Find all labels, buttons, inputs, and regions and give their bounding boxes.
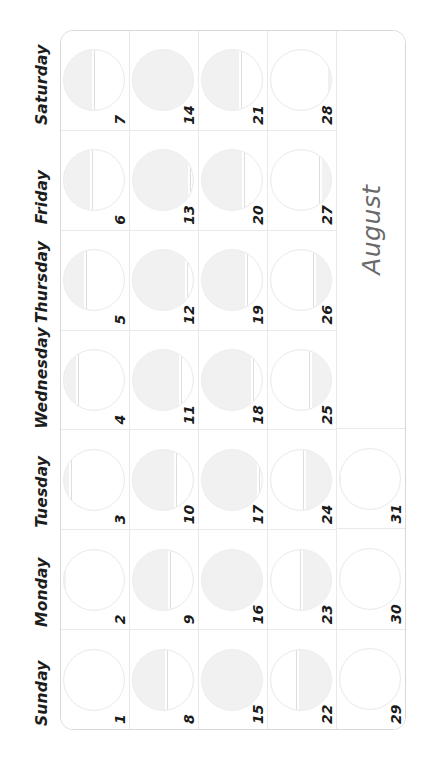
moon-illuminated-area [316,249,331,311]
calendar-day-cell[interactable]: 2 [61,529,129,629]
moon-illuminated-area [132,349,180,411]
moon-phase-icon [63,549,125,611]
moon-phase-icon [132,149,194,211]
moon-terminator-line [86,249,87,311]
weekday-label: Thursday [33,241,51,323]
moon-outline [339,648,401,710]
day-number: 27 [320,205,334,224]
calendar-day-cell[interactable]: 8 [130,629,198,729]
moon-phase-icon [63,149,125,211]
calendar-day-cell[interactable]: 5 [61,230,129,330]
weekday-header-sunday: Sunday [24,631,60,730]
calendar-day-cell[interactable]: 25 [268,330,336,430]
calendar-day-cell[interactable]: 12 [130,230,198,330]
day-number: 11 [182,405,196,424]
month-title-cell: August [337,31,405,428]
calendar-day-cell[interactable]: 7 [61,31,129,130]
moon-outline [270,49,332,111]
moon-terminator-line [92,149,93,211]
moon-phase-icon [63,249,125,311]
weekday-header-monday: Monday [24,532,60,631]
calendar-day-cell[interactable]: 23 [268,529,336,629]
moon-phase-icon [132,49,194,111]
calendar-day-cell[interactable]: 14 [130,31,198,130]
calendar-day-cell[interactable]: 10 [130,429,198,529]
moon-illuminated-area [132,249,185,311]
day-number: 8 [182,714,196,724]
moon-phase-icon [201,349,263,411]
weekday-label: Friday [33,170,51,224]
day-number: 30 [389,604,403,623]
day-number: 19 [251,305,265,324]
moon-phase-icon [201,549,263,611]
day-number: 23 [320,605,334,624]
moon-terminator-line [94,49,95,111]
calendar-day-cell[interactable]: 26 [268,230,336,330]
calendar-week-row: 891011121314 [130,31,199,729]
moon-illuminated-area [201,49,240,111]
moon-phase-icon [270,649,332,711]
moon-phase-icon [270,449,332,511]
calendar-page-rotation-wrapper: SundayMondayTuesdayWednesdayThursdayFrid… [0,0,444,766]
moon-phase-icon [132,649,194,711]
moon-terminator-line [296,649,297,711]
moon-phase-icon [339,448,401,510]
day-number: 21 [251,105,265,124]
calendar-day-cell[interactable]: 22 [268,629,336,729]
calendar-day-cell[interactable]: 20 [199,130,267,230]
calendar-day-cell[interactable]: 21 [199,31,267,130]
calendar-day-cell[interactable]: 1 [61,629,129,729]
calendar-week-row: 1234567 [61,31,130,729]
moon-phase-icon [270,149,332,211]
calendar-day-cell[interactable]: 11 [130,330,198,430]
moon-terminator-line [247,249,248,311]
calendar-body: SundayMondayTuesdayWednesdayThursdayFrid… [24,30,406,730]
calendar-day-cell[interactable]: 29 [337,629,405,729]
calendar-day-cell[interactable]: 31 [337,428,405,528]
day-number: 1 [113,714,127,724]
calendar-day-cell[interactable]: 30 [337,528,405,628]
moon-illuminated-area [132,549,169,611]
moon-terminator-line [309,349,310,411]
calendar-day-cell[interactable]: 15 [199,629,267,729]
calendar-grid: 1234567891011121314151617181920212223242… [60,30,406,730]
day-number: 14 [182,105,196,124]
day-number: 5 [113,315,127,325]
moon-illuminated-area [132,149,189,211]
moon-terminator-line [71,449,72,511]
weekday-header-wednesday: Wednesday [24,327,60,432]
calendar-day-cell[interactable]: 4 [61,330,129,430]
moon-phase-icon [270,349,332,411]
calendar-day-cell[interactable]: 24 [268,429,336,529]
moon-illuminated-area [132,649,166,711]
moon-phase-icon [63,49,125,111]
calendar-day-cell[interactable]: 19 [199,230,267,330]
moon-illuminated-area [63,149,91,211]
calendar-day-cell[interactable]: 13 [130,130,198,230]
calendar-day-cell[interactable]: 17 [199,429,267,529]
weekday-header-row: SundayMondayTuesdayWednesdayThursdayFrid… [24,30,60,730]
day-number: 6 [113,215,127,225]
moon-illuminated-area [322,149,332,211]
moon-terminator-line [78,349,79,411]
calendar-day-cell[interactable]: 6 [61,130,129,230]
calendar-day-cell[interactable]: 28 [268,31,336,130]
moon-phase-icon [201,649,263,711]
calendar-day-cell[interactable]: 18 [199,330,267,430]
calendar-day-cell[interactable]: 27 [268,130,336,230]
moon-terminator-line [187,249,188,311]
calendar-day-cell[interactable]: 9 [130,529,198,629]
moon-terminator-line [259,449,260,511]
day-number: 15 [251,705,265,724]
moon-phase-icon [132,549,194,611]
day-number: 12 [182,305,196,324]
moon-phase-icon [132,449,194,511]
moon-terminator-line [313,249,314,311]
moon-outline [63,549,125,611]
moon-illuminated-area [201,149,242,211]
calendar-day-cell[interactable]: 16 [199,529,267,629]
day-number: 16 [251,605,265,624]
calendar-day-cell[interactable]: 3 [61,429,129,529]
moon-phase-icon [201,449,263,511]
moon-illuminated-area [63,349,76,411]
